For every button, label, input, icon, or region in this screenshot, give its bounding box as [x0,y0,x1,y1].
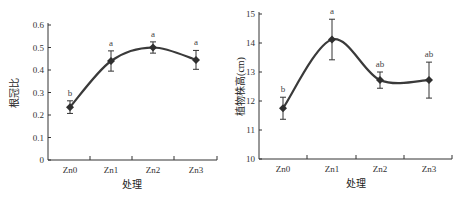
root-shoot-chart: 00.10.20.30.40.50.6Zn0Zn1Zn2Zn3处理根冠比baaa [8,20,217,190]
significance-letter: a [109,38,113,48]
diamond-marker [328,36,336,44]
significance-letter: a [194,37,198,47]
x-tick-label: Zn0 [276,164,291,174]
diamond-marker [192,56,200,64]
y-axis-label: 植物株高(cm) [234,57,247,116]
diamond-marker [425,76,433,84]
x-tick-label: Zn0 [63,165,78,175]
x-axis-label: 处理 [122,179,142,190]
x-tick-label: Zn3 [422,164,437,174]
x-tick-label: Zn2 [373,164,388,174]
significance-letter: b [68,88,73,98]
chart-canvas: 00.10.20.30.40.50.6Zn0Zn1Zn2Zn3处理根冠比baaa… [0,0,465,198]
y-tick-label: 0.2 [33,110,44,120]
significance-letter: a [330,6,334,16]
significance-letter: b [281,84,286,94]
x-axis-label: 处理 [346,178,366,189]
plant-height-chart: 101112131415Zn0Zn1Zn2Zn3处理植物株高(cm)baabab [234,6,452,189]
x-tick-label: Zn3 [189,165,204,175]
y-tick-label: 0.4 [33,65,45,75]
significance-letter: a [151,29,155,39]
y-tick-label: 14 [246,38,256,48]
significance-letter: ab [425,49,434,59]
y-tick-label: 15 [246,9,256,19]
significance-letter: ab [376,59,385,69]
x-tick-label: Zn1 [325,164,340,174]
y-axis-label: 根冠比 [8,78,20,108]
y-tick-label: 0.1 [33,133,44,143]
x-tick-label: Zn1 [104,165,119,175]
data-line [283,39,429,108]
y-tick-label: 10 [246,154,256,164]
diamond-marker [149,44,157,52]
y-tick-label: 0.3 [33,88,45,98]
y-tick-label: 0.6 [33,20,45,30]
y-tick-label: 0.5 [33,43,45,53]
y-tick-label: 13 [246,67,256,77]
y-tick-label: 12 [246,96,255,106]
y-tick-label: 0 [40,155,45,165]
x-tick-label: Zn2 [146,165,161,175]
data-line [70,47,196,107]
y-tick-label: 11 [246,125,255,135]
